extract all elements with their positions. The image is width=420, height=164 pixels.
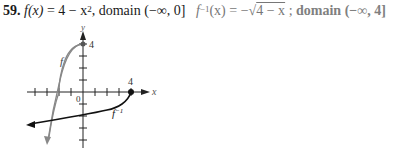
graph: y x 4 4 0 f f−1	[0, 0, 420, 164]
f-inverse-label: f−1	[112, 107, 123, 119]
x-axis-arrow-icon	[141, 89, 150, 95]
f-curve	[49, 44, 83, 137]
y-axis-label: y	[80, 22, 85, 32]
origin-label: 0	[76, 94, 81, 104]
f-inverse-arrow-icon	[26, 121, 35, 128]
f-inverse-endpoint	[128, 89, 134, 95]
x-axis-label: x	[151, 86, 157, 97]
f-arrow-icon	[44, 136, 51, 145]
y-axis-arrow-icon	[80, 31, 86, 40]
y-tick-label-4: 4	[89, 39, 94, 50]
x-tick-label-4: 4	[128, 76, 133, 87]
f-endpoint	[81, 42, 86, 47]
